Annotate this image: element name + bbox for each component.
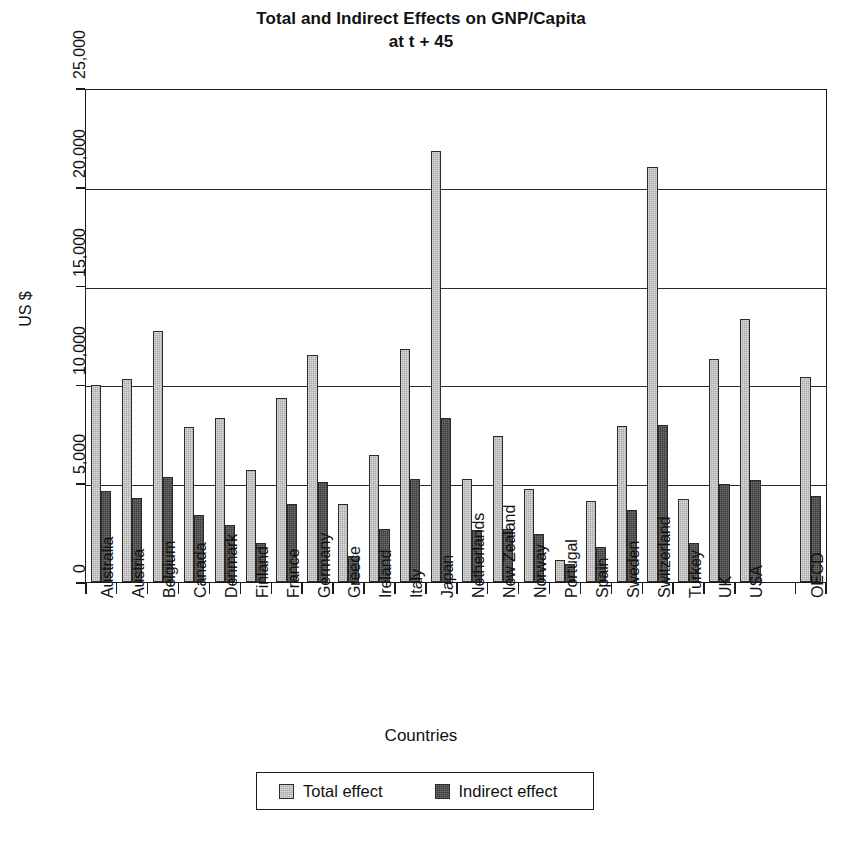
plot-area xyxy=(85,89,827,583)
x-tick-mark xyxy=(795,583,797,594)
y-tick-label: 5,000 xyxy=(71,434,89,474)
page-title: Total and Indirect Effects on GNP/Capita xyxy=(0,8,842,31)
x-tick-label: Portugal xyxy=(563,539,581,598)
bar-total-effect xyxy=(431,151,441,582)
x-tick-label: OECD xyxy=(809,552,827,598)
bar-group xyxy=(153,90,173,582)
chart-legend: Total effect Indirect effect xyxy=(256,772,594,810)
x-tick-label: New Zealand xyxy=(501,505,519,598)
bar-group xyxy=(617,90,637,582)
bar-group xyxy=(184,90,204,582)
bar-group xyxy=(369,90,389,582)
x-tick-label: Norway xyxy=(532,544,550,598)
y-tick-mark xyxy=(76,88,85,90)
bar-group xyxy=(647,90,667,582)
x-tick-label: Australia xyxy=(99,537,117,598)
bar-group xyxy=(524,90,544,582)
bar-group xyxy=(740,90,760,582)
x-tick-label: Denmark xyxy=(223,534,241,598)
bar-total-effect xyxy=(400,349,410,582)
chart-figure: Total and Indirect Effects on GNP/Capita… xyxy=(0,0,842,843)
bar-group xyxy=(555,90,575,582)
legend-label-total-effect: Total effect xyxy=(303,782,383,801)
bar-group xyxy=(400,90,420,582)
bar-group xyxy=(462,90,482,582)
bar-group xyxy=(800,90,820,582)
y-tick-mark xyxy=(76,385,85,387)
chart-subtitle: at t + 45 xyxy=(0,31,842,54)
bar-indirect-effect xyxy=(410,479,420,582)
x-tick-label: Netherlands xyxy=(470,513,488,598)
x-tick-label: UK xyxy=(717,576,735,598)
x-tick-label: Switzerland xyxy=(656,516,674,598)
bar-indirect-effect xyxy=(719,484,729,582)
legend-swatch-total-effect xyxy=(279,784,294,799)
x-tick-label: Germany xyxy=(316,533,334,598)
x-tick-label: Canada xyxy=(192,543,210,598)
legend-item-indirect-effect: Indirect effect xyxy=(435,782,558,801)
x-tick-label: Finland xyxy=(254,546,272,598)
bars-layer xyxy=(86,90,826,582)
x-tick-label: USA xyxy=(748,565,766,598)
bar-group xyxy=(122,90,142,582)
bar-group xyxy=(338,90,358,582)
y-tick-label: 25,000 xyxy=(71,30,89,79)
bar-group xyxy=(215,90,235,582)
bar-group xyxy=(586,90,606,582)
bar-group xyxy=(431,90,451,582)
y-tick-label: 20,000 xyxy=(71,129,89,178)
chart-title-block: Total and Indirect Effects on GNP/Capita… xyxy=(0,8,842,54)
bar-total-effect xyxy=(709,359,719,582)
x-tick-label: Spain xyxy=(594,558,612,598)
bar-group xyxy=(276,90,296,582)
x-tick-label: Ireland xyxy=(377,550,395,598)
bar-total-effect xyxy=(800,377,810,583)
x-tick-label: Greece xyxy=(346,546,364,598)
y-tick-label: 10,000 xyxy=(71,326,89,375)
legend-item-total-effect: Total effect xyxy=(279,782,383,801)
bar-group xyxy=(91,90,111,582)
x-tick-label: Belgium xyxy=(161,541,179,598)
legend-swatch-indirect-effect xyxy=(435,784,450,799)
bar-group xyxy=(678,90,698,582)
y-tick-mark xyxy=(76,286,85,288)
bar-group xyxy=(246,90,266,582)
x-axis-title: Countries xyxy=(0,726,842,746)
x-tick-mark xyxy=(85,583,87,594)
bar-group xyxy=(307,90,327,582)
x-tick-label: Turkey xyxy=(687,550,705,598)
x-tick-label: Sweden xyxy=(625,541,643,598)
bar-group xyxy=(709,90,729,582)
x-tick-label: France xyxy=(285,549,303,598)
bar-total-effect xyxy=(740,319,750,582)
x-tick-label: Austria xyxy=(130,549,148,598)
y-tick-label: 15,000 xyxy=(71,228,89,277)
x-tick-label: Italy xyxy=(408,569,426,598)
y-tick-label: 0 xyxy=(71,564,89,573)
y-tick-mark xyxy=(76,582,85,584)
y-axis-title: US $ xyxy=(17,289,35,329)
legend-label-indirect-effect: Indirect effect xyxy=(459,782,558,801)
y-tick-mark xyxy=(76,187,85,189)
y-tick-mark xyxy=(76,483,85,485)
x-tick-label: Japan xyxy=(439,555,457,598)
